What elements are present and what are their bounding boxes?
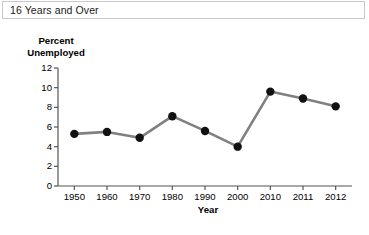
data-point-marker <box>103 128 111 136</box>
x-tick-label: 2012 <box>316 192 356 202</box>
data-series <box>70 87 340 150</box>
page-title: 16 Years and Over <box>3 4 99 16</box>
y-tick-label: 10 <box>28 83 52 93</box>
data-point-marker <box>331 102 339 110</box>
data-point-marker <box>299 94 307 102</box>
y-tick-label: 8 <box>28 102 52 112</box>
data-point-marker <box>266 87 274 95</box>
data-point-marker <box>233 142 241 150</box>
data-point-marker <box>70 130 78 138</box>
tick-marks <box>54 68 336 190</box>
data-point-marker <box>201 127 209 135</box>
data-point-marker <box>168 112 176 120</box>
y-tick-label: 6 <box>28 122 52 132</box>
data-point-marker <box>135 134 143 142</box>
chart-axes <box>0 30 369 235</box>
series-line <box>74 92 335 147</box>
y-tick-label: 2 <box>28 161 52 171</box>
y-tick-label: 4 <box>28 142 52 152</box>
header-bar: 16 Years and Over <box>2 1 365 19</box>
line-chart: Percent Unemployed Year 024681012 195019… <box>0 30 369 235</box>
y-tick-label: 0 <box>28 181 52 191</box>
y-tick-label: 12 <box>28 63 52 73</box>
